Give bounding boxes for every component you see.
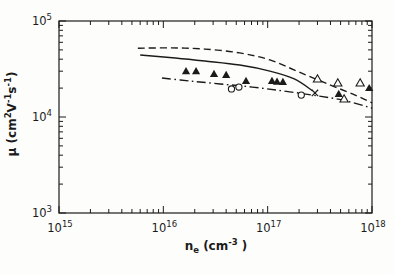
filled-triangle-marker [242,77,250,84]
open-circle-marker [228,86,234,92]
x-tick-labels: 1015101610171018 [47,219,385,235]
y-tick-label: 103 [32,204,52,220]
y-axis-label: μ (cm2V-1s-1) [3,72,19,157]
open-circle-marker [236,84,242,90]
x-tick-label: 1017 [256,219,281,235]
x-tick-label: 1015 [47,219,72,235]
filled-triangle-marker [210,70,218,77]
x-tick-label: 1018 [360,219,385,235]
open-circle-data [228,84,304,98]
open-triangle-marker [356,79,364,86]
figure: 1015101610171018103104105ne (cm-3 )μ (cm… [0,0,394,275]
y-tick-label: 104 [32,108,52,124]
x-tick-label: 1016 [152,219,177,235]
open-triangle-marker [334,79,342,86]
filled-triangle-marker [335,90,343,97]
filled-triangle-data [182,67,373,97]
mobility-vs-density-chart: 1015101610171018103104105ne (cm-3 )μ (cm… [0,0,394,275]
filled-triangle-marker [279,78,287,85]
filled-triangle-marker [222,71,230,78]
y-tick-labels: 103104105 [32,12,52,220]
filled-triangle-marker [182,67,190,74]
open-circle-marker [298,92,304,98]
open-triangle-data [313,75,364,102]
x-axis-label: ne (cm-3 ) [185,237,248,255]
filled-triangle-marker [192,67,200,74]
y-tick-label: 105 [32,12,52,28]
